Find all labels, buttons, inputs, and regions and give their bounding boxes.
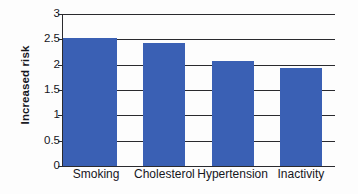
x-axis-tick-labels: SmokingCholesterolHypertensionInactivity	[62, 168, 335, 190]
bar	[63, 38, 117, 166]
y-axis-tick-label: 3	[30, 8, 60, 20]
y-axis-tick-labels: 00.511.522.53	[30, 0, 60, 194]
y-axis-tick-label: 2.5	[30, 34, 60, 46]
bar-chart: Increased risk 00.511.522.53 SmokingChol…	[0, 0, 358, 194]
bar	[212, 61, 254, 166]
y-axis-tick-label: 0	[30, 160, 60, 172]
bars-group	[62, 14, 335, 166]
bar	[280, 68, 322, 166]
y-axis-tick-mark	[58, 166, 63, 167]
y-axis-tick-label: 0.5	[30, 135, 60, 147]
x-axis-tick-label: Hypertension	[197, 168, 268, 181]
y-axis-tick-label: 1.5	[30, 84, 60, 96]
x-axis-tick-label: Smoking	[73, 168, 120, 181]
bar	[143, 43, 185, 166]
y-axis-tick-label: 2	[30, 59, 60, 71]
plot-area	[62, 14, 335, 166]
x-axis-tick-label: Cholesterol	[134, 168, 195, 181]
y-axis-tick-label: 1	[30, 110, 60, 122]
x-axis-tick-label: Inactivity	[278, 168, 325, 181]
